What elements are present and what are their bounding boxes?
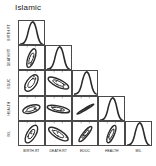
splom-diagonal-cell [18,20,45,45]
y-axis-label: MIL [8,121,13,146]
scatterplot-matrix [18,20,152,146]
splom-panel [45,121,72,146]
splom-panel [45,96,72,121]
splom-diagonal-cell [72,70,99,95]
x-axis-label: MIL [125,149,152,154]
y-axis-label: DEATH.RT [8,45,13,70]
splom-diagonal-cell [125,121,152,146]
x-axis-label: DEATH.RT [45,149,72,154]
splom-panel [45,70,72,95]
y-axis-label: EDUC [8,70,13,95]
splom-diagonal-cell [98,96,125,121]
splom-panel [18,70,45,95]
splom-figure: Islamic BIRTH.RTDEATH.RTEDUCHEALTHMILBIR… [0,0,156,166]
splom-panel [18,96,45,121]
splom-panel [72,121,99,146]
splom-panel [72,96,99,121]
x-axis-label: EDUC [72,149,99,154]
x-axis-label: BIRTH.RT [18,149,45,154]
y-axis-label: HEALTH [8,96,13,121]
page-title: Islamic [15,3,41,13]
splom-panel [18,45,45,70]
splom-panel [18,121,45,146]
splom-panel [98,121,125,146]
y-axis-label: BIRTH.RT [8,20,13,45]
splom-diagonal-cell [45,45,72,70]
x-axis-label: HEALTH [98,149,125,154]
